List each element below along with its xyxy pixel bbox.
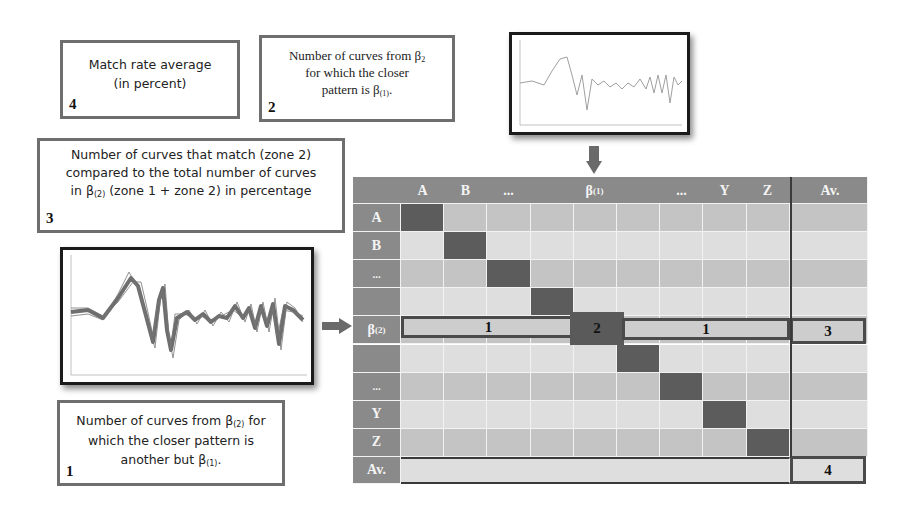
callout-3-number: 3 (46, 209, 54, 228)
callout-zone-1: Number of curves from β(2) for which the… (57, 400, 285, 486)
diagonal-cell (703, 401, 746, 429)
matrix-cell (747, 204, 790, 232)
matrix-cell (617, 204, 660, 232)
matrix-cell (617, 373, 660, 401)
matrix-cell (531, 232, 574, 260)
callout-2-line3: pattern is β(1). (262, 82, 452, 99)
average-cell (790, 232, 868, 260)
row-header: Z (353, 429, 401, 457)
matrix-cell (660, 260, 703, 288)
matrix-cell (703, 232, 746, 260)
multi-curve-plot (60, 247, 314, 385)
matrix-cell (747, 345, 790, 373)
zone-2-match: 2 (570, 312, 624, 345)
callout-1-number: 1 (66, 462, 74, 481)
callout-4-line2: (in percent) (63, 76, 237, 92)
matrix-cell (401, 345, 444, 373)
average-cell (790, 373, 868, 401)
matrix-cell (574, 345, 617, 373)
col-header-y: Y (703, 177, 746, 204)
row-header-average: Av. (353, 457, 401, 484)
callout-2-line2: for which the closer (262, 65, 452, 82)
matrix-cell (703, 260, 746, 288)
row-header (353, 345, 401, 373)
average-cell (790, 260, 868, 288)
col-header-beta1: β(1) (573, 177, 616, 204)
matrix-cell (487, 429, 530, 457)
row-header: β(2) (353, 316, 401, 344)
matrix-cell (574, 373, 617, 401)
matrix-cell (487, 232, 530, 260)
confusion-matrix: A B ... β(1) ... Y Z Av. AB...β(2)...YZ … (353, 177, 868, 484)
matrix-cell (574, 401, 617, 429)
matrix-cell (703, 373, 746, 401)
matrix-cell (401, 373, 444, 401)
matrix-cell (401, 260, 444, 288)
matrix-cell (444, 401, 487, 429)
callout-zone-2: Number of curves from β2 for which the c… (259, 35, 455, 122)
callout-1-line3: another but β(1). (60, 452, 282, 469)
matrix-cell (401, 429, 444, 457)
matrix-cell (401, 232, 444, 260)
matrix-cell (487, 204, 530, 232)
diagonal-cell (660, 373, 703, 401)
matrix-cell (574, 204, 617, 232)
col-header-average: Av. (792, 177, 868, 204)
col-header-ellipsis-2: ... (660, 177, 703, 204)
matrix-cell (531, 401, 574, 429)
pattern-curve-icon (512, 35, 687, 132)
matrix-cell (617, 260, 660, 288)
zone-3-row-average: 3 (790, 318, 866, 344)
matrix-cell (747, 401, 790, 429)
callout-1-line2: which the closer pattern is (60, 433, 282, 449)
matrix-cell (617, 401, 660, 429)
matrix-cell (703, 204, 746, 232)
diagonal-cell (401, 204, 444, 232)
callout-3-line1: Number of curves that match (zone 2) (40, 147, 342, 163)
diagonal-cell (617, 345, 660, 373)
matrix-cell (531, 260, 574, 288)
row-header: A (353, 204, 401, 232)
matrix-cell (703, 288, 746, 316)
matrix-cell (401, 401, 444, 429)
col-header-a: A (401, 177, 444, 204)
matrix-cell (487, 345, 530, 373)
matrix-cell (444, 373, 487, 401)
matrix-cell (574, 232, 617, 260)
callout-1-line1: Number of curves from β(2) for (60, 413, 282, 430)
matrix-cell (487, 401, 530, 429)
col-header-b: B (444, 177, 487, 204)
row-header: Y (353, 401, 401, 429)
callout-3-line2: compared to the total number of curves (40, 165, 342, 181)
matrix-cell (574, 260, 617, 288)
callout-match-rate-average: Match rate average (in percent) 4 (60, 40, 240, 119)
matrix-cell (444, 204, 487, 232)
diagonal-cell (747, 429, 790, 457)
matrix-cell (747, 288, 790, 316)
diagonal-cell (444, 232, 487, 260)
matrix-cell (531, 345, 574, 373)
matrix-cell (747, 373, 790, 401)
callout-zone-3: Number of curves that match (zone 2) com… (37, 138, 345, 233)
matrix-cell (660, 232, 703, 260)
callout-2-line1: Number of curves from β2 (262, 48, 452, 65)
average-cell (790, 345, 868, 373)
matrix-cell (660, 204, 703, 232)
curves-bundle-icon (63, 250, 311, 382)
average-cell (790, 429, 868, 457)
matrix-cell (574, 429, 617, 457)
matrix-cell (660, 401, 703, 429)
col-header-ellipsis-1: ... (487, 177, 530, 204)
row-header: ... (353, 373, 401, 401)
matrix-cell (617, 429, 660, 457)
matrix-cell (444, 429, 487, 457)
matrix-cell (444, 260, 487, 288)
row-header (353, 288, 401, 316)
average-column-divider (790, 177, 792, 457)
matrix-cell (660, 345, 703, 373)
average-cell (790, 288, 868, 316)
diagonal-cell (531, 288, 574, 316)
matrix-cell (660, 429, 703, 457)
average-cell (790, 204, 868, 232)
zone-4-overall-average: 4 (790, 456, 866, 484)
